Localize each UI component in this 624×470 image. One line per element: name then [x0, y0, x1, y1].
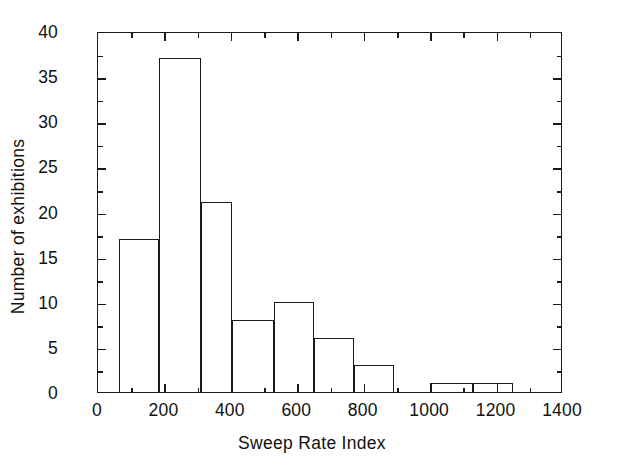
y-tick-label: 20 — [38, 202, 58, 223]
y-major-tick-right — [553, 168, 561, 170]
x-tick-label: 600 — [281, 400, 311, 421]
y-minor-tick-right — [557, 326, 562, 328]
y-major-tick-right — [553, 123, 561, 125]
histogram-bar — [119, 239, 160, 392]
x-tick-label: 800 — [348, 400, 378, 421]
x-major-tick-top — [297, 33, 299, 41]
x-tick-label: 1400 — [542, 400, 582, 421]
y-axis-title-text: Number of exhibitions — [9, 138, 30, 314]
x-major-tick — [430, 384, 432, 392]
x-axis-title: Sweep Rate Index — [0, 433, 624, 454]
y-minor-tick-right — [557, 101, 562, 103]
x-minor-tick — [463, 388, 465, 393]
y-minor-tick-right — [557, 371, 562, 373]
x-major-tick-top — [497, 33, 499, 41]
x-major-tick — [297, 384, 299, 392]
x-minor-tick — [530, 388, 532, 393]
y-major-tick-right — [553, 259, 561, 261]
y-minor-tick — [98, 236, 103, 238]
y-major-tick — [98, 214, 106, 216]
y-tick-label: 30 — [38, 112, 58, 133]
plot-area — [97, 32, 562, 393]
y-major-tick — [98, 168, 106, 170]
histogram-bar — [159, 58, 201, 392]
x-tick-label: 1000 — [409, 400, 449, 421]
y-minor-tick-right — [557, 56, 562, 58]
histogram-figure: Number of exhibitions 0510152025303540 0… — [0, 0, 624, 470]
x-minor-tick — [198, 388, 200, 393]
y-tick-label: 15 — [38, 247, 58, 268]
y-minor-tick-right — [557, 191, 562, 193]
histogram-bar — [201, 202, 232, 392]
x-major-tick — [164, 384, 166, 392]
x-minor-tick-top — [198, 33, 200, 38]
y-axis-title: Number of exhibitions — [6, 0, 32, 470]
x-minor-tick-top — [264, 33, 266, 38]
y-major-tick — [98, 349, 106, 351]
y-minor-tick-right — [557, 146, 562, 148]
y-minor-tick — [98, 56, 103, 58]
x-minor-tick-top — [131, 33, 133, 38]
y-tick-label: 0 — [48, 383, 58, 404]
y-tick-label: 40 — [38, 22, 58, 43]
y-minor-tick — [98, 191, 103, 193]
y-tick-label: 25 — [38, 157, 58, 178]
y-major-tick — [98, 78, 106, 80]
histogram-bar — [232, 320, 275, 392]
y-major-tick — [98, 304, 106, 306]
x-minor-tick-top — [530, 33, 532, 38]
x-major-tick — [231, 384, 233, 392]
x-minor-tick — [264, 388, 266, 393]
x-major-tick — [364, 384, 366, 392]
y-major-tick-right — [553, 78, 561, 80]
y-minor-tick-right — [557, 236, 562, 238]
x-axis-title-text: Sweep Rate Index — [238, 433, 386, 453]
y-major-tick — [98, 259, 106, 261]
y-tick-label: 10 — [38, 292, 58, 313]
histogram-bar — [354, 365, 394, 392]
x-minor-tick-top — [397, 33, 399, 38]
x-major-tick-top — [430, 33, 432, 41]
x-major-tick — [497, 384, 499, 392]
y-major-tick-right — [553, 349, 561, 351]
histogram-bar — [314, 338, 354, 392]
histogram-bar — [274, 302, 314, 392]
x-minor-tick-top — [463, 33, 465, 38]
x-minor-tick-top — [331, 33, 333, 38]
x-minor-tick — [131, 388, 133, 393]
x-minor-tick — [397, 388, 399, 393]
x-tick-label: 200 — [149, 400, 179, 421]
y-tick-label: 5 — [48, 337, 58, 358]
histogram-bar — [473, 383, 513, 392]
y-minor-tick — [98, 281, 103, 283]
y-major-tick — [98, 123, 106, 125]
x-minor-tick — [331, 388, 333, 393]
y-major-tick-right — [553, 214, 561, 216]
y-major-tick-right — [553, 304, 561, 306]
y-minor-tick — [98, 146, 103, 148]
x-major-tick-top — [231, 33, 233, 41]
histogram-bar — [430, 383, 473, 392]
y-tick-label: 35 — [38, 67, 58, 88]
y-minor-tick-right — [557, 281, 562, 283]
y-minor-tick — [98, 101, 103, 103]
x-tick-label: 1200 — [476, 400, 516, 421]
x-tick-label: 400 — [215, 400, 245, 421]
y-minor-tick — [98, 371, 103, 373]
y-minor-tick — [98, 326, 103, 328]
x-major-tick-top — [364, 33, 366, 41]
x-major-tick-top — [164, 33, 166, 41]
x-tick-label: 0 — [92, 400, 102, 421]
